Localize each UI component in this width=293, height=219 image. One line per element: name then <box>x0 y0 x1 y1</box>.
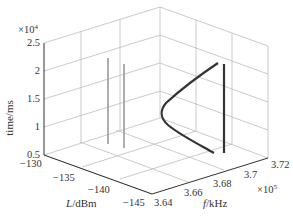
svg-text:2: 2 <box>35 65 40 76</box>
svg-text:1: 1 <box>35 121 40 132</box>
svg-text:2.5: 2.5 <box>27 37 40 48</box>
z-multiplier: ×104 <box>18 23 38 35</box>
grid-floor <box>44 130 232 194</box>
y-multiplier: ×105 <box>257 183 277 195</box>
svg-text:−135: −135 <box>53 172 75 183</box>
svg-text:3.68: 3.68 <box>213 178 231 189</box>
chart-3d: 2.5 2 1.5 1 0.5 ×104 time/ms −130 −135 −… <box>0 0 293 219</box>
x-axis-label: L/dBm <box>65 197 97 209</box>
grid-back-left-wall <box>44 7 160 155</box>
svg-text:3.72: 3.72 <box>271 159 289 170</box>
axes <box>44 43 268 194</box>
z-ticks: 2.5 2 1.5 1 0.5 <box>27 37 40 160</box>
svg-text:−145: −145 <box>123 197 145 208</box>
svg-text:3.7: 3.7 <box>244 169 257 180</box>
svg-text:1.5: 1.5 <box>27 93 40 104</box>
z-axis-label: time/ms <box>3 100 15 135</box>
svg-text:−130: −130 <box>20 158 42 169</box>
grid-back-right-wall <box>160 7 268 158</box>
svg-text:−140: −140 <box>88 184 110 195</box>
y-axis-label: f/kHz <box>203 197 228 209</box>
svg-text:3.66: 3.66 <box>184 187 202 198</box>
svg-text:3.64: 3.64 <box>154 197 173 208</box>
